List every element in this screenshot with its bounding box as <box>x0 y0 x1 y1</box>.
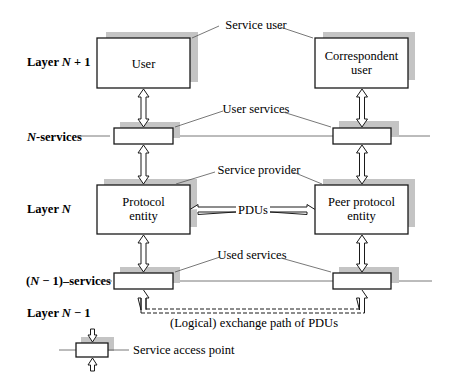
arrow-user-to-sap <box>138 89 149 127</box>
layer-n-label: Layer N <box>27 202 72 216</box>
service-user-leader-right <box>280 27 313 38</box>
used-services-label: Used services <box>217 248 286 262</box>
protocol-entity-line2: entity <box>129 209 158 223</box>
arrow-protocol-to-lower-sap <box>138 235 149 272</box>
n-services-label: N-services <box>26 130 82 144</box>
arrow-correspondent-to-sap <box>357 89 368 127</box>
n-minus-1-sap-left <box>114 273 173 289</box>
legend-sap-box <box>76 343 108 357</box>
layer-n-minus-1-label: Layer N − 1 <box>27 306 91 320</box>
peer-protocol-entity-line2: entity <box>347 209 376 223</box>
logical-path-label: (Logical) exchange path of PDUs <box>170 316 338 330</box>
legend-sap <box>59 329 129 371</box>
n-minus-1-sap-right <box>333 273 391 289</box>
layer-n-plus-1-label: Layer N + 1 <box>27 55 91 69</box>
correspondent-user-line1: Correspondent <box>325 49 399 63</box>
user-services-leader-right <box>283 112 331 127</box>
n-minus-1-services-label: (N − 1)–services <box>26 274 111 288</box>
osi-layer-diagram: Layer N + 1 Layer N Layer N − 1 N-servic… <box>0 0 452 390</box>
service-provider-label: Service provider <box>218 163 302 177</box>
service-provider-leader-right <box>293 172 322 184</box>
arrow-sap-to-peer <box>357 145 368 184</box>
protocol-entity-line1: Protocol <box>122 195 165 209</box>
n-sap-right <box>333 128 391 144</box>
used-services-leader-right <box>281 258 331 272</box>
used-services-leader-left <box>175 257 220 272</box>
legend-sap-label: Service access point <box>133 343 235 357</box>
peer-protocol-entity-line1: Peer protocol <box>328 195 396 209</box>
correspondent-user-line2: user <box>351 63 373 77</box>
n-sap-left <box>114 128 173 144</box>
pdus-label: PDUs <box>238 203 268 217</box>
logical-exchange-path <box>138 290 368 313</box>
user-services-leader-left <box>175 111 223 127</box>
arrow-peer-to-lower-sap <box>357 235 368 272</box>
legend-up-arrow-icon <box>88 358 97 371</box>
service-user-label: Service user <box>225 18 287 32</box>
arrow-sap-to-protocol <box>138 145 149 184</box>
user-services-label: User services <box>223 102 290 116</box>
user-box-label: User <box>132 57 156 71</box>
